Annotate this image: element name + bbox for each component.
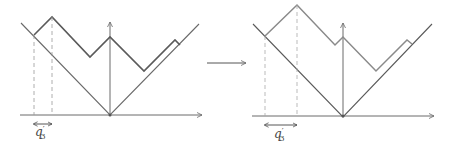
label-sub: 3	[280, 134, 285, 143]
diagram-canvas	[0, 0, 453, 154]
left-upper-path	[34, 17, 180, 71]
left-origin-dot	[109, 114, 112, 117]
right-upper-path	[265, 5, 412, 71]
right-origin-dot	[342, 115, 345, 118]
label-sub: 3	[41, 132, 46, 141]
right-panel	[252, 5, 434, 125]
left-q3-prime-label: q′3	[35, 124, 46, 141]
right-q3-prime-label: q′3	[274, 126, 285, 143]
left-panel	[20, 17, 202, 124]
